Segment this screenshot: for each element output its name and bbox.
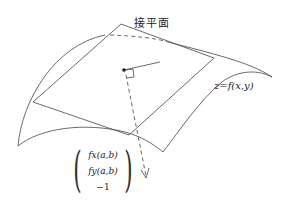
normal-vector: ( ) fx(a,b) fy(a,b) −1 <box>74 146 132 198</box>
surface-top-edge-hidden <box>110 35 168 42</box>
tangent-plane <box>33 24 214 135</box>
plane-line <box>124 62 160 70</box>
vector-row-fy: fy(a,b) <box>74 166 132 176</box>
vector-row-minus-one: −1 <box>74 182 132 192</box>
surface-label: z=f(x,y) <box>214 80 254 91</box>
diagram-canvas <box>0 0 287 204</box>
tangent-point <box>122 68 126 72</box>
tangent-plane-label: 接平面 <box>134 14 170 30</box>
vector-row-fx: fx(a,b) <box>74 150 132 160</box>
right-angle-marker <box>126 69 134 78</box>
